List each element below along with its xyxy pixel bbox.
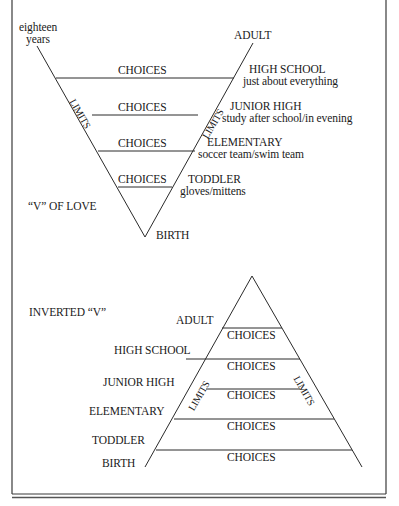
v-example-toddler: gloves/mittens xyxy=(180,185,246,198)
v-choices-3: CHOICES xyxy=(118,137,167,150)
tri-stage-toddler: TODDLER xyxy=(92,434,145,447)
tri-stage-high-school: HIGH SCHOOL xyxy=(114,344,191,357)
v-example-high-school: just about everything xyxy=(243,75,338,88)
tri-stage-birth: BIRTH xyxy=(102,457,135,470)
tri-choices-1: CHOICES xyxy=(227,329,276,342)
v-choices-2: CHOICES xyxy=(118,101,167,114)
tri-stage-junior-high: JUNIOR HIGH xyxy=(103,376,174,389)
tri-choices-3: CHOICES xyxy=(227,389,276,402)
tri-stage-elementary: ELEMENTARY xyxy=(89,405,164,418)
tri-choices-2: CHOICES xyxy=(227,360,276,373)
v-example-elementary: soccer team/swim team xyxy=(198,148,304,161)
diagram-lines xyxy=(0,0,399,506)
v-choices-1: CHOICES xyxy=(118,64,167,77)
tri-choices-4: CHOICES xyxy=(227,420,276,433)
years-label: years xyxy=(26,33,50,46)
inverted-v-title: INVERTED “V” xyxy=(29,306,106,319)
diagram-canvas: eighteen years ADULT CHOICES CHOICES CHO… xyxy=(0,0,399,506)
v-of-love-title: “V” OF LOVE xyxy=(28,200,97,213)
v-example-junior-high: study after school/in evening xyxy=(222,112,352,125)
v-adult-label: ADULT xyxy=(234,29,271,42)
v-choices-4: CHOICES xyxy=(118,173,167,186)
tri-choices-5: CHOICES xyxy=(227,451,276,464)
tri-stage-adult: ADULT xyxy=(176,314,213,327)
v-birth-label: BIRTH xyxy=(156,229,189,242)
